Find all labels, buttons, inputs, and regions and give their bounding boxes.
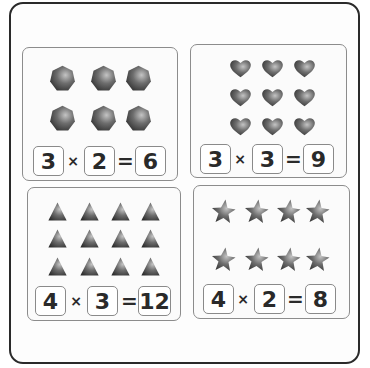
product-box[interactable]: 8 — [305, 284, 336, 314]
star-icon — [211, 199, 236, 224]
equation: 4 × 2 = 8 — [203, 284, 337, 314]
heptagon-icon — [125, 105, 152, 132]
factor-b-box[interactable]: 2 — [254, 284, 285, 314]
product: 9 — [311, 147, 326, 172]
triangle-icon — [111, 257, 130, 276]
triangle-icon — [141, 229, 160, 248]
factor-b-box[interactable]: 2 — [84, 146, 115, 176]
star-icon — [244, 199, 269, 224]
star-icon — [276, 199, 301, 224]
factor-b-box[interactable]: 3 — [252, 144, 283, 174]
equation: 3 × 2 = 6 — [33, 146, 167, 176]
heptagon-icon — [49, 65, 76, 92]
factor-b-box[interactable]: 3 — [87, 286, 118, 316]
product: 8 — [313, 287, 328, 312]
triangle-icon — [80, 257, 99, 276]
heptagon-icon — [125, 65, 152, 92]
star-icon — [276, 247, 301, 272]
triangle-icon — [48, 202, 67, 221]
factor-b: 2 — [92, 149, 107, 174]
equals-sign: = — [121, 286, 135, 316]
triangle-icon — [141, 257, 160, 276]
equals-sign: = — [117, 146, 131, 176]
heart-icon — [293, 88, 316, 107]
heart-icon — [229, 88, 252, 107]
times-sign: × — [66, 146, 80, 176]
factor-b: 2 — [262, 287, 277, 312]
factor-a: 3 — [41, 149, 56, 174]
equation: 3 × 3 = 9 — [200, 144, 334, 174]
product: 12 — [139, 289, 170, 314]
triangle-icon — [111, 229, 130, 248]
factor-a: 4 — [211, 287, 226, 312]
factor-a-box[interactable]: 3 — [200, 144, 231, 174]
triangle-icon — [48, 229, 67, 248]
times-sign: × — [236, 284, 250, 314]
product-box[interactable]: 12 — [138, 286, 171, 316]
heart-icon — [293, 117, 316, 136]
heptagon-icon — [90, 105, 117, 132]
triangle-icon — [80, 202, 99, 221]
panel-heptagons: 3 × 2 = 6 — [22, 47, 178, 181]
heptagon-icon — [49, 105, 76, 132]
panel-triangles: 4 × 3 = 12 — [27, 187, 181, 321]
heart-icon — [261, 59, 284, 78]
star-icon — [244, 247, 269, 272]
factor-a: 4 — [43, 289, 58, 314]
triangle-icon — [141, 202, 160, 221]
heart-icon — [293, 59, 316, 78]
factor-b: 3 — [95, 289, 110, 314]
factor-a-box[interactable]: 4 — [203, 284, 234, 314]
times-sign: × — [69, 286, 83, 316]
heart-icon — [229, 59, 252, 78]
triangle-icon — [111, 202, 130, 221]
factor-a: 3 — [208, 147, 223, 172]
factor-a-box[interactable]: 3 — [33, 146, 64, 176]
equation: 4 × 3 = 12 — [35, 286, 175, 316]
times-sign: × — [233, 144, 247, 174]
triangle-icon — [80, 229, 99, 248]
star-icon — [305, 247, 330, 272]
panel-hearts: 3 × 3 = 9 — [190, 44, 347, 178]
heart-icon — [229, 117, 252, 136]
equals-sign: = — [287, 284, 301, 314]
star-icon — [211, 247, 236, 272]
heart-icon — [261, 88, 284, 107]
factor-a-box[interactable]: 4 — [35, 286, 66, 316]
equals-sign: = — [285, 144, 299, 174]
product-box[interactable]: 6 — [135, 146, 166, 176]
star-icon — [305, 199, 330, 224]
product: 6 — [143, 149, 158, 174]
heptagon-icon — [90, 65, 117, 92]
panel-stars: 4 × 2 = 8 — [193, 185, 350, 319]
heart-icon — [261, 117, 284, 136]
product-box[interactable]: 9 — [303, 144, 334, 174]
factor-b: 3 — [260, 147, 275, 172]
triangle-icon — [48, 257, 67, 276]
